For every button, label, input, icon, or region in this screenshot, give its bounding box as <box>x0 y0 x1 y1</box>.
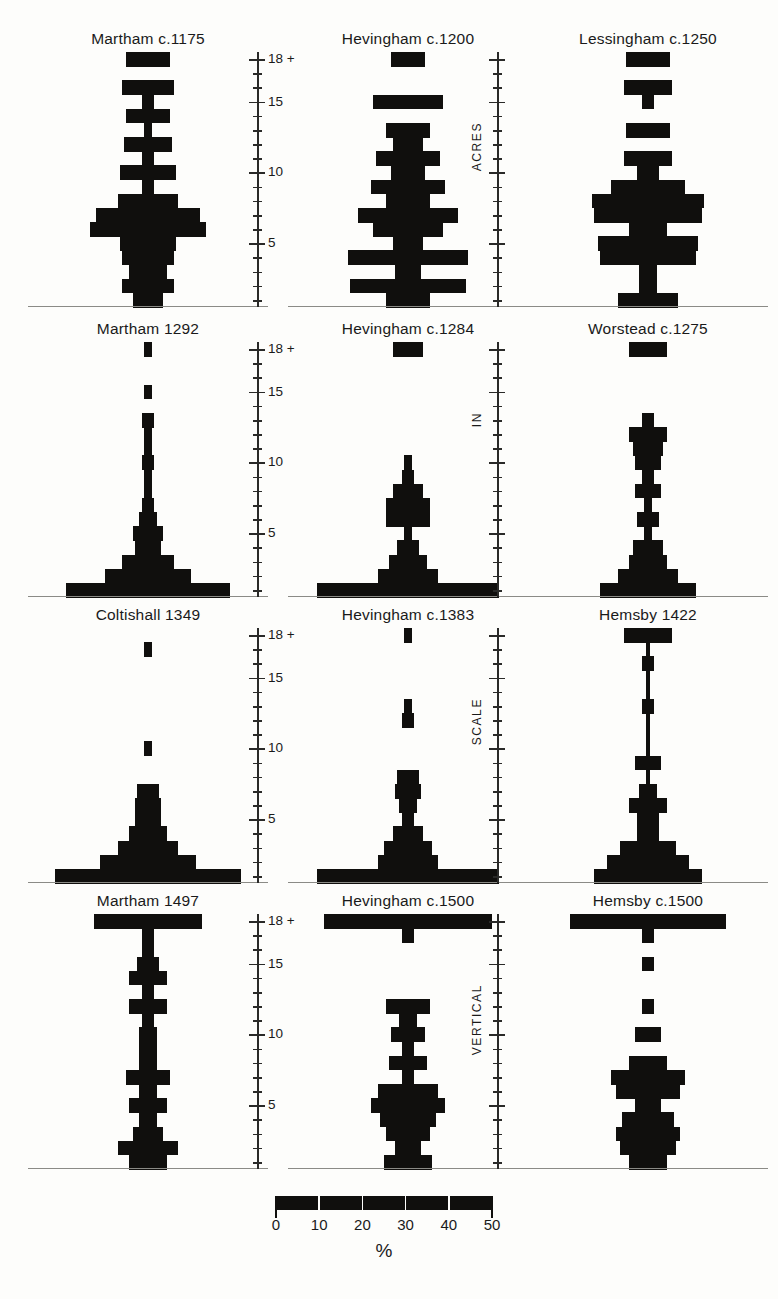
histogram-bar <box>96 208 200 223</box>
axis-tick-minor <box>253 848 262 850</box>
histogram-bar <box>118 841 178 856</box>
histogram-bar <box>642 470 655 485</box>
axis-tick-minor <box>253 791 262 793</box>
axis-tick-minor <box>493 706 502 708</box>
scale-tick-label: 40 <box>440 1216 457 1233</box>
histogram-bar <box>402 1042 415 1057</box>
scale-tick-label: 0 <box>272 1216 280 1233</box>
histogram-bar <box>139 1042 156 1057</box>
axis-tick-minor <box>253 420 262 422</box>
axis-line <box>257 914 259 1169</box>
histogram-bar <box>391 1027 426 1042</box>
axis-tick-label: 18 + <box>268 51 295 66</box>
histogram-bar <box>371 1098 444 1113</box>
axis-tick-minor <box>253 1020 262 1022</box>
axis-tick-minor <box>253 286 262 288</box>
axis-tick-major <box>489 172 505 174</box>
axis-tick-minor <box>493 1162 502 1164</box>
histogram-bar <box>642 413 655 428</box>
histogram-bar <box>646 713 650 728</box>
histogram-bar <box>371 180 444 195</box>
histogram-bar <box>378 855 438 870</box>
axis-tick-minor <box>493 1148 502 1150</box>
axis-tick-major <box>249 635 265 637</box>
axis-tick-minor <box>253 576 262 578</box>
axis-tick-minor <box>493 434 502 436</box>
histogram-bar <box>118 1141 178 1156</box>
axis-tick-minor <box>493 547 502 549</box>
value-axis: SCALE <box>468 598 528 888</box>
histogram-bar <box>642 999 655 1014</box>
axis-tick-major <box>249 172 265 174</box>
axis-tick-minor <box>493 406 502 408</box>
axis-tick-major <box>489 59 505 61</box>
histogram-bar <box>384 841 432 856</box>
axis-tick-major <box>489 678 505 680</box>
histogram-bar <box>142 180 155 195</box>
histogram-bar <box>142 413 155 428</box>
histogram-bar <box>122 555 174 570</box>
axis-tick-minor <box>493 1077 502 1079</box>
histogram-bar <box>126 52 169 67</box>
axis-tick-minor <box>253 649 262 651</box>
chart-baseline <box>528 1168 768 1169</box>
histogram-bar <box>592 194 704 209</box>
axis-tick-minor <box>493 949 502 951</box>
axis-tick-minor <box>493 420 502 422</box>
histogram-bar <box>611 180 684 195</box>
axis-tick-minor <box>253 215 262 217</box>
axis-tick-minor <box>253 590 262 592</box>
axis-tick-minor <box>493 257 502 259</box>
histogram-bar <box>626 123 669 138</box>
axis-tick-minor <box>493 1091 502 1093</box>
histogram-bar <box>386 194 429 209</box>
histogram-bar <box>393 484 423 499</box>
histogram-bar <box>124 137 172 152</box>
histogram-bar <box>129 1098 168 1113</box>
histogram-bar <box>404 526 413 541</box>
histogram-bar <box>100 855 195 870</box>
histogram-bar <box>646 642 650 657</box>
axis-title-vertical: SCALE <box>470 698 484 745</box>
axis-tick-minor <box>253 763 262 765</box>
histogram-bar <box>389 1056 428 1071</box>
axis-tick-minor <box>253 300 262 302</box>
axis-tick-minor <box>493 215 502 217</box>
axis-tick-label: 15 <box>268 670 283 685</box>
histogram-bar <box>618 569 678 584</box>
histogram-bar <box>402 470 415 485</box>
axis-tick-minor <box>493 734 502 736</box>
axis-tick-minor <box>253 363 262 365</box>
histogram-bar <box>142 95 155 110</box>
axis-tick-minor <box>253 720 262 722</box>
axis-tick-minor <box>253 706 262 708</box>
axis-title-vertical: ACRES <box>470 122 484 171</box>
axis-tick-minor <box>253 144 262 146</box>
histogram-bar <box>144 441 153 456</box>
axis-tick-minor <box>493 978 502 980</box>
axis-tick-minor <box>253 477 262 479</box>
histogram-bar <box>144 741 153 756</box>
axis-tick-minor <box>253 992 262 994</box>
axis-line <box>257 628 259 883</box>
axis-tick-minor <box>493 87 502 89</box>
axis-tick-minor <box>493 229 502 231</box>
axis-tick-minor <box>493 663 502 665</box>
histogram-bar <box>129 826 168 841</box>
histogram-bar <box>386 123 429 138</box>
axis-tick-major <box>489 921 505 923</box>
axis-tick-label: 10 <box>268 740 283 755</box>
histogram-bar <box>122 250 174 265</box>
axis-tick-minor <box>493 116 502 118</box>
histogram-bar <box>646 671 650 686</box>
histogram-bar <box>639 279 656 294</box>
axis-tick-major <box>249 102 265 104</box>
axis-tick-major <box>489 635 505 637</box>
histogram-bar <box>598 236 697 251</box>
histogram-bar <box>624 628 672 643</box>
histogram-bar <box>129 999 168 1014</box>
histogram-bar <box>637 812 659 827</box>
histogram-bar <box>635 484 661 499</box>
axis-tick-minor <box>253 1134 262 1136</box>
histogram-bar <box>402 1070 415 1085</box>
